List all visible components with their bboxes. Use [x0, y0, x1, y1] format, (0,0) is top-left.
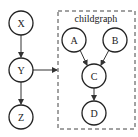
node-d: D — [82, 101, 106, 125]
graph-diagram: childgraph X Y Z A B — [0, 0, 138, 137]
node-label: Y — [17, 65, 24, 76]
node-z: Z — [9, 105, 33, 129]
node-label: B — [112, 35, 119, 46]
node-b: B — [103, 28, 127, 52]
node-x: X — [9, 11, 33, 35]
edge-b-c — [101, 50, 109, 65]
node-y: Y — [9, 58, 33, 82]
node-c: C — [82, 64, 106, 88]
node-label: X — [17, 18, 25, 29]
node-a: A — [62, 28, 86, 52]
cluster-label: childgraph — [75, 13, 118, 24]
node-label: A — [70, 35, 78, 46]
edge-a-c — [80, 50, 87, 65]
node-label: D — [90, 108, 97, 119]
node-label: Z — [18, 112, 24, 123]
node-label: C — [91, 71, 98, 82]
